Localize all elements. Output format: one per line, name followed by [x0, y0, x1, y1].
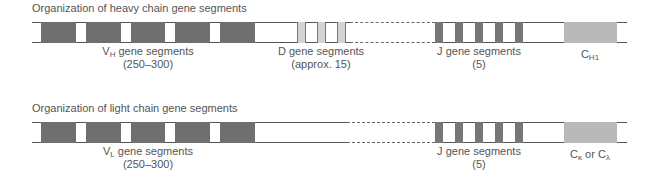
light-c-segment: [564, 122, 617, 143]
light-j-segment-1: [435, 122, 443, 143]
light-c-label: Cκ or Cλ: [570, 148, 610, 161]
light-v-segment-2: [86, 122, 121, 143]
heavy-v-label: VH gene segments (250–300): [102, 45, 193, 71]
light-v-label: VL gene segments (250–300): [103, 145, 193, 171]
heavy-chain-title: Organization of heavy chain gene segment…: [32, 2, 247, 14]
light-j-segment-3: [475, 122, 483, 143]
heavy-v-segment-2: [86, 22, 121, 43]
heavy-v-segment-1: [41, 22, 76, 43]
heavy-j-label: J gene segments (5): [437, 45, 521, 71]
heavy-j-segment-3: [475, 22, 483, 43]
heavy-j-segment-5: [515, 22, 523, 43]
light-v-segment-1: [41, 122, 76, 143]
heavy-bottom-dashed-line: [350, 42, 435, 43]
heavy-v-segment-3: [131, 22, 165, 43]
heavy-top-dashed-line: [350, 22, 435, 23]
heavy-j-segment-1: [435, 22, 443, 43]
heavy-j-segment-2: [455, 22, 463, 43]
light-v-segment-5: [220, 122, 255, 143]
light-bottom-dashed-line: [347, 142, 435, 143]
light-j-label: J gene segments (5): [437, 145, 521, 171]
light-chain-title: Organization of light chain gene segment…: [32, 102, 237, 114]
light-j-segment-2: [455, 122, 463, 143]
heavy-d-segment-3: [337, 22, 346, 43]
heavy-c-label: CH1: [581, 48, 599, 61]
light-v-segment-3: [131, 122, 165, 143]
heavy-d-segment-1: [297, 22, 306, 43]
heavy-v-segment-5: [220, 22, 255, 43]
heavy-c-segment: [564, 22, 617, 43]
heavy-d-segment-2: [317, 22, 326, 43]
heavy-d-label: D gene segments (approx. 15): [278, 45, 364, 71]
heavy-v-segment-4: [175, 22, 210, 43]
heavy-j-segment-4: [495, 22, 503, 43]
light-j-segment-4: [495, 122, 503, 143]
light-v-segment-4: [175, 122, 210, 143]
light-top-dashed-line: [347, 122, 435, 123]
light-j-segment-5: [515, 122, 523, 143]
